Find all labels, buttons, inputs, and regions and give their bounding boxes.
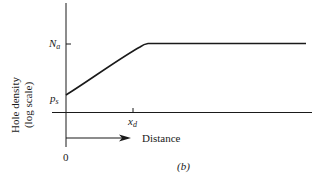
origin-label: 0 xyxy=(63,152,69,163)
y-axis-label-line2: (log scale) xyxy=(22,65,35,145)
xd-label: xd xyxy=(128,116,137,129)
panel-label: (b) xyxy=(177,161,190,172)
distance-label: Distance xyxy=(142,133,180,144)
y-axis-label-line1: Hole density xyxy=(9,65,22,145)
na-label: Na xyxy=(49,38,60,51)
y-axis-label: Hole density (log scale) xyxy=(9,65,39,145)
ps-label: ps xyxy=(50,93,59,106)
diagram-canvas xyxy=(0,0,327,181)
hole-density-curve xyxy=(66,44,306,96)
